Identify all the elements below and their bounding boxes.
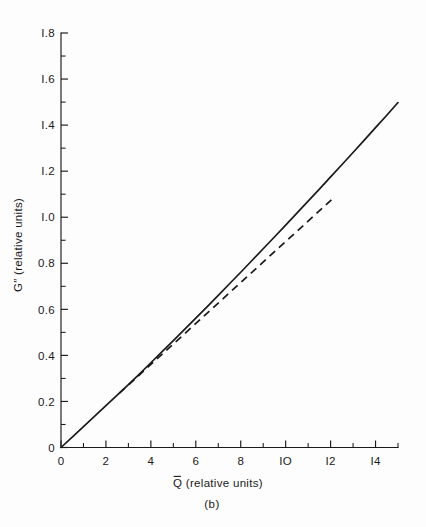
y-tick-label: 0.4 <box>38 350 55 362</box>
y-tick-label: I.8 <box>41 27 55 39</box>
y-tick-label: I.0 <box>41 211 55 223</box>
y-tick-label: 0.6 <box>38 304 55 316</box>
x-tick-label: 4 <box>148 455 155 467</box>
y-tick-label: 0.8 <box>38 257 55 269</box>
figure-container: 00.20.40.60.8I.0I.2I.4I.6I.802468IOI2I4 … <box>0 0 426 527</box>
x-tick-label: 8 <box>237 455 244 467</box>
x-tick-label: I4 <box>370 455 380 467</box>
x-tick-label: 0 <box>58 455 65 467</box>
figure-caption: (b) <box>204 498 219 510</box>
y-axis-title: G″ (relative units) <box>12 198 24 292</box>
y-tick-label: I.4 <box>41 119 55 131</box>
x-tick-label: I2 <box>325 455 335 467</box>
chart-plot: 00.20.40.60.8I.0I.2I.4I.6I.802468IOI2I4 … <box>0 0 426 527</box>
x-tick-label: 2 <box>103 455 110 467</box>
y-axis-title-text: G″ (relative units) <box>12 198 24 292</box>
x-tick-label: 6 <box>192 455 199 467</box>
y-tick-label: 0 <box>48 442 55 454</box>
y-tick-label: 0.2 <box>38 396 55 408</box>
y-tick-label: I.6 <box>41 73 55 85</box>
y-tick-label: I.2 <box>41 165 55 177</box>
x-axis-title: Q (relative units) <box>173 476 263 489</box>
x-tick-label: IO <box>279 455 292 467</box>
x-axis-title-text: Q (relative units) <box>173 477 263 489</box>
